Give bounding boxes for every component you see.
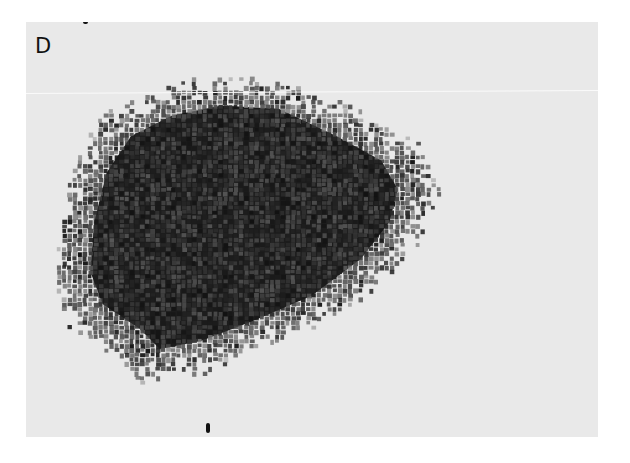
grain bbox=[400, 173, 405, 178]
grain bbox=[343, 252, 347, 257]
grain bbox=[187, 169, 192, 174]
grain bbox=[344, 114, 348, 118]
grain bbox=[400, 164, 404, 168]
grain bbox=[265, 133, 269, 137]
grain bbox=[234, 238, 239, 242]
grain bbox=[290, 220, 295, 224]
grain bbox=[109, 156, 113, 160]
grain bbox=[270, 132, 274, 137]
grain bbox=[224, 119, 228, 123]
grain bbox=[83, 265, 88, 270]
grain bbox=[389, 242, 394, 247]
grain bbox=[327, 247, 331, 252]
grain bbox=[98, 275, 103, 279]
grain bbox=[374, 137, 378, 141]
grain bbox=[421, 164, 425, 169]
grain bbox=[182, 252, 187, 256]
grain bbox=[375, 261, 379, 266]
grain bbox=[193, 344, 197, 349]
grain bbox=[301, 280, 306, 284]
grain bbox=[119, 239, 123, 243]
grain bbox=[155, 238, 159, 242]
grain bbox=[145, 340, 149, 344]
grain bbox=[291, 247, 296, 251]
grain bbox=[223, 201, 227, 206]
grain bbox=[229, 197, 234, 202]
grain bbox=[104, 174, 108, 179]
grain bbox=[265, 229, 269, 234]
grain bbox=[218, 224, 222, 228]
grain bbox=[120, 147, 125, 151]
grain bbox=[379, 155, 383, 159]
grain bbox=[228, 156, 232, 160]
grain bbox=[57, 265, 61, 270]
grain bbox=[99, 270, 104, 275]
grain bbox=[224, 354, 228, 358]
grain bbox=[322, 261, 326, 265]
grain bbox=[166, 219, 170, 224]
grain bbox=[255, 261, 259, 265]
grain bbox=[197, 170, 201, 174]
grain bbox=[266, 215, 271, 219]
grain bbox=[218, 197, 222, 202]
grain bbox=[296, 243, 301, 248]
grain bbox=[281, 109, 286, 114]
grain bbox=[130, 316, 135, 320]
grain bbox=[338, 261, 342, 266]
grain bbox=[124, 275, 129, 279]
grain bbox=[286, 104, 291, 109]
grain bbox=[349, 257, 354, 261]
grain bbox=[156, 266, 160, 271]
grain bbox=[104, 312, 108, 317]
grain bbox=[109, 339, 113, 344]
grain bbox=[151, 147, 156, 152]
grain bbox=[245, 173, 250, 178]
grain bbox=[114, 183, 118, 187]
grain bbox=[369, 128, 373, 132]
grain bbox=[224, 141, 228, 145]
grain bbox=[250, 321, 255, 325]
grain bbox=[208, 109, 213, 113]
grain bbox=[62, 271, 66, 276]
grain bbox=[62, 225, 67, 229]
grain bbox=[224, 280, 228, 284]
grain bbox=[166, 179, 171, 183]
grain bbox=[187, 284, 191, 288]
grain bbox=[275, 307, 280, 311]
grain bbox=[140, 147, 144, 151]
grain bbox=[161, 151, 166, 155]
grain bbox=[135, 156, 140, 160]
grain bbox=[233, 349, 237, 354]
grain bbox=[182, 243, 186, 248]
grain bbox=[208, 284, 212, 288]
grain bbox=[224, 210, 228, 215]
grain bbox=[176, 349, 180, 353]
grain bbox=[375, 155, 379, 160]
grain bbox=[120, 234, 124, 239]
grain bbox=[182, 104, 186, 109]
grain bbox=[323, 270, 327, 274]
grain bbox=[286, 261, 290, 266]
grain bbox=[266, 174, 271, 178]
grain bbox=[207, 348, 212, 352]
grain bbox=[160, 266, 165, 270]
grain bbox=[353, 179, 357, 182]
grain bbox=[384, 133, 388, 137]
grain bbox=[114, 275, 118, 280]
grain bbox=[62, 220, 67, 224]
grain bbox=[94, 335, 98, 339]
grain bbox=[297, 307, 302, 312]
grain bbox=[374, 151, 379, 155]
grain bbox=[307, 165, 311, 169]
grain bbox=[83, 224, 88, 229]
grain bbox=[176, 344, 181, 348]
grain bbox=[302, 114, 306, 119]
grain bbox=[296, 321, 300, 326]
grain bbox=[104, 288, 109, 293]
grain bbox=[328, 123, 332, 128]
grain bbox=[238, 100, 242, 104]
grain bbox=[312, 133, 316, 137]
grain bbox=[73, 210, 77, 215]
grain bbox=[337, 234, 342, 238]
grain bbox=[135, 210, 139, 214]
